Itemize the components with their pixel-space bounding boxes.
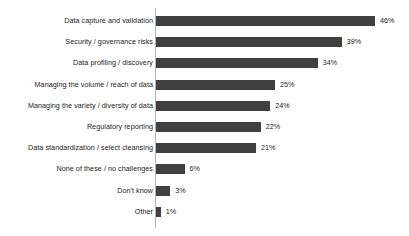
bar-row: Data profiling / discovery34% (0, 58, 409, 68)
value-label: 39% (347, 35, 361, 48)
bar (156, 207, 161, 217)
value-label: 6% (190, 162, 200, 175)
bar (156, 143, 256, 153)
value-label: 24% (275, 99, 289, 112)
category-label: Other (3, 205, 153, 218)
bar-row: Other1% (0, 207, 409, 217)
bar (156, 80, 275, 90)
value-label: 3% (175, 184, 185, 197)
bar (156, 122, 261, 132)
bar (156, 16, 375, 26)
value-label: 46% (380, 14, 394, 27)
bar-row: None of these / no challenges6% (0, 164, 409, 174)
bar (156, 101, 270, 111)
bar-row: Data standardization / select cleansing2… (0, 143, 409, 153)
bar (156, 37, 342, 47)
value-label: 25% (280, 78, 294, 91)
category-label: Data profiling / discovery (3, 56, 153, 69)
value-label: 22% (266, 120, 280, 133)
bar-row: Don't know3% (0, 186, 409, 196)
category-label: Don't know (3, 184, 153, 197)
category-label: Security / governance risks (3, 35, 153, 48)
bar-chart: Data capture and validation46%Security /… (0, 0, 409, 236)
category-label: Regulatory reporting (3, 120, 153, 133)
value-label: 1% (166, 205, 176, 218)
category-label: None of these / no challenges (3, 162, 153, 175)
value-label: 21% (261, 141, 275, 154)
category-label: Data capture and validation (3, 14, 153, 27)
bar (156, 164, 185, 174)
bar (156, 186, 170, 196)
bar-rows-container: Data capture and validation46%Security /… (0, 0, 409, 236)
bar (156, 58, 318, 68)
category-label: Managing the volume / reach of data (3, 78, 153, 91)
category-label: Managing the variety / diversity of data (3, 99, 153, 112)
bar-row: Security / governance risks39% (0, 37, 409, 47)
category-label: Data standardization / select cleansing (3, 141, 153, 154)
bar-row: Regulatory reporting22% (0, 122, 409, 132)
value-label: 34% (323, 56, 337, 69)
bar-row: Managing the volume / reach of data25% (0, 80, 409, 90)
bar-row: Managing the variety / diversity of data… (0, 101, 409, 111)
bar-row: Data capture and validation46% (0, 16, 409, 26)
